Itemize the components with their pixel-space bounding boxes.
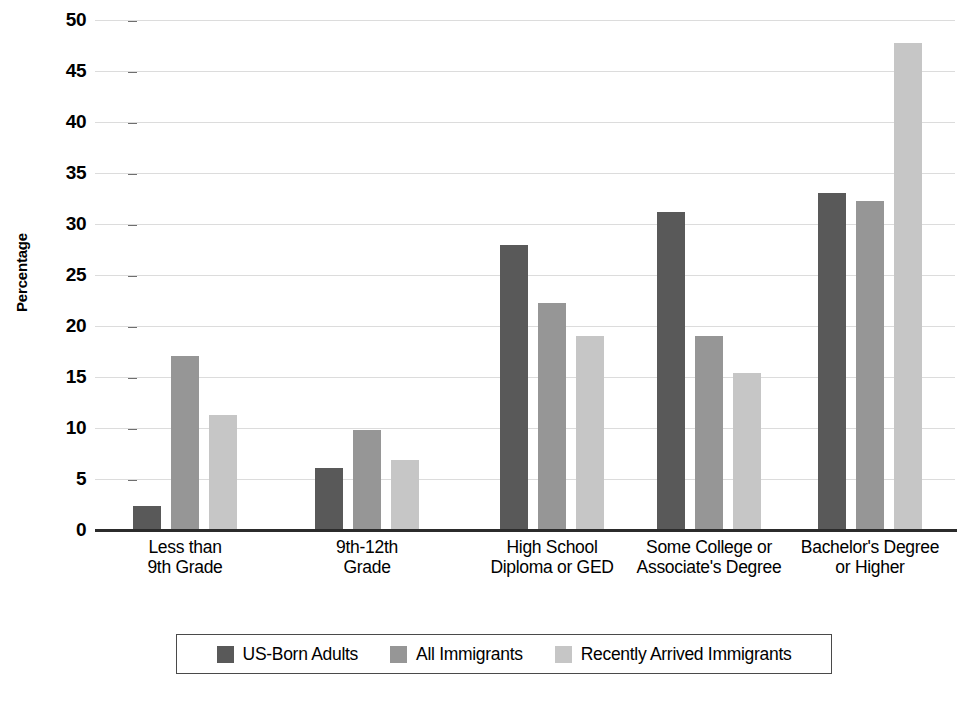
y-axis-tick-label: 15 [46, 367, 86, 386]
legend-label: US-Born Adults [243, 644, 358, 665]
y-axis-tick-label: 40 [46, 112, 86, 131]
bar [538, 303, 566, 530]
gridline [95, 173, 955, 174]
legend-label: All Immigrants [416, 644, 523, 665]
gridline [95, 71, 955, 72]
chart-legend: US-Born AdultsAll ImmigrantsRecently Arr… [176, 634, 832, 674]
bar [695, 336, 723, 530]
legend-color-swatch [555, 646, 572, 663]
category-label-line1: High School [506, 537, 597, 557]
category-label-line1: Some College or [646, 537, 772, 557]
bar [391, 460, 419, 530]
bar [856, 201, 884, 530]
y-axis-tick-label: 35 [46, 163, 86, 182]
category-label-line1: 9th-12th [336, 537, 398, 557]
legend-item[interactable]: All Immigrants [390, 644, 523, 665]
bar-chart: Percentage 50454035302520151050 Less tha… [0, 0, 969, 703]
gridline [95, 122, 955, 123]
legend-item[interactable]: Recently Arrived Immigrants [555, 644, 792, 665]
bar [500, 245, 528, 530]
y-axis-title-text: Percentage [13, 233, 30, 312]
bar [353, 430, 381, 530]
bar [657, 212, 685, 530]
category-label-line1: Bachelor's Degree [801, 537, 939, 557]
y-axis-tick-label: 20 [46, 316, 86, 335]
y-axis-tick-labels: 50454035302520151050 [40, 20, 86, 530]
bar [133, 506, 161, 530]
bar [171, 356, 199, 530]
category-label-line1: Less than [148, 537, 221, 557]
bar [315, 468, 343, 530]
gridline [95, 20, 955, 21]
bar [576, 336, 604, 530]
legend-item[interactable]: US-Born Adults [217, 644, 358, 665]
legend-color-swatch [390, 646, 407, 663]
y-axis-tick-label: 5 [46, 469, 86, 488]
category-label-line2: or Higher [760, 557, 969, 577]
y-axis-title: Percentage [4, 232, 38, 312]
legend-color-swatch [217, 646, 234, 663]
x-axis-category-label: Bachelor's Degreeor Higher [760, 537, 969, 578]
y-axis-tick-label: 50 [46, 10, 86, 29]
x-axis-line [95, 529, 957, 532]
y-axis-tick-label: 45 [46, 61, 86, 80]
bar [209, 415, 237, 530]
bar [894, 43, 922, 530]
legend-label: Recently Arrived Immigrants [581, 644, 792, 665]
bar [818, 193, 846, 530]
y-axis-tick-label: 25 [46, 265, 86, 284]
plot-area [95, 20, 955, 530]
y-axis-tick-label: 10 [46, 418, 86, 437]
bar [733, 373, 761, 530]
y-axis-tick-label: 30 [46, 214, 86, 233]
